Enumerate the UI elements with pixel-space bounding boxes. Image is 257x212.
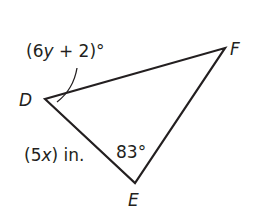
angle-e-label: 83°	[116, 142, 146, 162]
angle-d-leader-line	[57, 68, 77, 102]
vertex-e-label: E	[128, 190, 139, 210]
side-de-label: (5x) in.	[24, 145, 84, 165]
triangle-diagram: (6y + 2)° D F E 83° (5x) in.	[0, 0, 257, 212]
vertex-d-label: D	[19, 90, 32, 110]
angle-d-label: (6y + 2)°	[26, 41, 105, 61]
vertex-f-label: F	[230, 39, 240, 59]
